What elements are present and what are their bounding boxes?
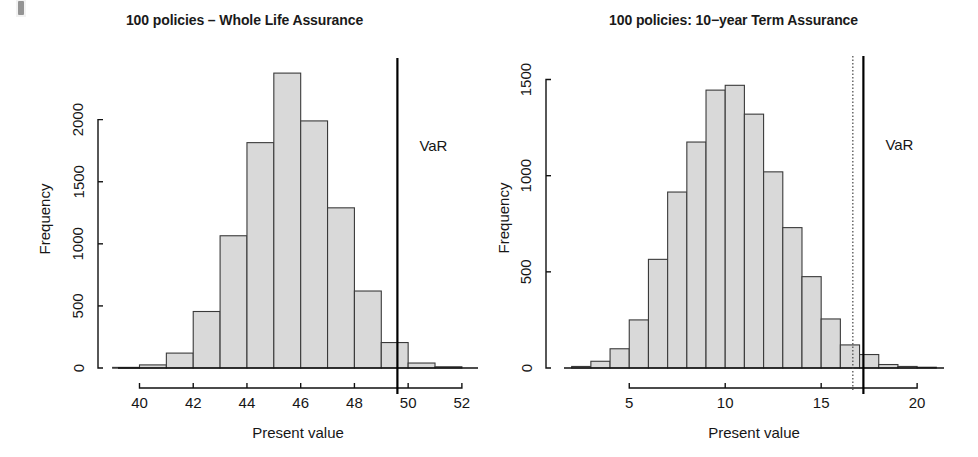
histogram-bar <box>706 90 725 368</box>
x-axis-tick-label: 10 <box>717 394 734 411</box>
histogram-bar <box>591 361 610 368</box>
chart-panel-left: 100 policies – Whole Life Assurance 0500… <box>0 0 489 457</box>
x-axis-tick-label: 40 <box>131 394 148 411</box>
histogram-bar <box>629 320 648 368</box>
histogram-bar <box>166 353 193 368</box>
figure-canvas: 100 policies – Whole Life Assurance 0500… <box>0 0 978 457</box>
var-annotation-label: VaR <box>419 137 447 154</box>
histogram-bar <box>764 172 783 368</box>
var-annotation-label: VaR <box>885 136 913 153</box>
histogram-bar <box>247 143 274 368</box>
y-axis-tick-label: 1000 <box>518 159 535 192</box>
x-axis-tick-label: 50 <box>400 394 417 411</box>
histogram-bar <box>648 259 667 368</box>
x-axis-title: Present value <box>708 424 800 441</box>
x-axis-tick-label: 42 <box>185 394 202 411</box>
x-axis-tick-label: 44 <box>239 394 256 411</box>
x-axis-tick-label: 5 <box>625 394 633 411</box>
histogram-right: 050010001500Frequency5101520Present valu… <box>489 0 978 457</box>
histogram-bar <box>301 121 328 368</box>
histogram-bar <box>725 85 744 368</box>
x-axis-tick-label: 52 <box>454 394 471 411</box>
y-axis-tick-label: 500 <box>70 293 87 318</box>
y-axis-tick-label: 500 <box>518 259 535 284</box>
x-axis-tick-label: 46 <box>292 394 309 411</box>
histogram-bar <box>610 349 629 368</box>
histogram-bar <box>328 208 355 368</box>
y-axis-tick-label: 2000 <box>70 103 87 136</box>
y-axis-tick-label: 0 <box>518 364 535 372</box>
histogram-bar <box>744 114 763 368</box>
histogram-bar <box>193 312 220 369</box>
y-axis-tick-label: 1000 <box>70 227 87 260</box>
y-axis-title: Frequency <box>36 183 53 254</box>
x-axis-title: Present value <box>252 424 344 441</box>
histogram-bar <box>687 142 706 368</box>
y-axis-tick-label: 0 <box>70 364 87 372</box>
x-axis-line <box>629 383 917 388</box>
histogram-bar <box>821 319 840 368</box>
y-axis-tick-label: 1500 <box>518 63 535 96</box>
histogram-bar <box>220 236 247 368</box>
x-axis-tick-label: 15 <box>813 394 830 411</box>
histogram-bar <box>783 228 802 368</box>
y-axis-tick-label: 1500 <box>70 165 87 198</box>
histogram-bar <box>354 291 381 368</box>
x-axis-tick-label: 20 <box>909 394 926 411</box>
y-axis-title: Frequency <box>495 182 512 253</box>
histogram-left: 0500100015002000Frequency40424446485052P… <box>0 0 489 457</box>
histogram-bar <box>840 345 859 368</box>
histogram-bar <box>381 343 408 368</box>
histogram-bar <box>802 277 821 368</box>
y-axis-line <box>546 80 551 368</box>
x-axis-tick-label: 48 <box>346 394 363 411</box>
chart-panel-right: 100 policies: 10−year Term Assurance 050… <box>489 0 978 457</box>
histogram-bar <box>274 73 301 368</box>
histogram-bar <box>668 192 687 368</box>
